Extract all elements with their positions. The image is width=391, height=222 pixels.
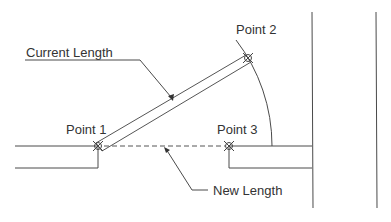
current-length-leader xyxy=(25,60,174,101)
lengthen-diagram: Current Length New Length Point 1 Point … xyxy=(0,0,391,222)
left-ledge xyxy=(15,146,98,168)
arrowhead-icon xyxy=(164,147,170,153)
new-length-leader xyxy=(164,147,208,190)
point1-marker-icon xyxy=(93,141,103,151)
point3-label: Point 3 xyxy=(217,122,257,137)
new-length-label: New Length xyxy=(213,183,282,198)
point2-label: Point 2 xyxy=(236,22,276,37)
point3-marker-icon xyxy=(224,141,234,151)
wall-lines xyxy=(312,12,377,208)
right-ledge xyxy=(229,146,312,168)
current-length-label: Current Length xyxy=(26,45,113,60)
point2-marker-icon xyxy=(243,53,253,63)
point1-label: Point 1 xyxy=(66,122,106,137)
